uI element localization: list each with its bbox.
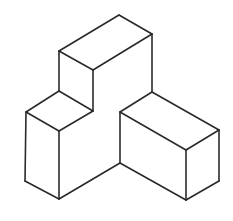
edge-line [59, 91, 93, 111]
block-edges [25, 15, 219, 200]
edge-line [26, 91, 59, 112]
edge-line [120, 163, 186, 200]
edge-line [119, 15, 152, 34]
isometric-block-drawing [0, 0, 233, 221]
edge-line [186, 130, 219, 150]
edge-line [152, 92, 219, 130]
edge-line [186, 181, 219, 200]
edge-line [59, 15, 119, 51]
edge-line [93, 34, 152, 70]
edge-line [59, 111, 93, 131]
edge-line [120, 112, 186, 150]
edge-line [59, 51, 93, 70]
edge-line [120, 92, 152, 112]
edge-line [26, 112, 59, 131]
edge-line [59, 163, 120, 199]
edge-line [25, 181, 59, 199]
edge-line [25, 112, 26, 181]
